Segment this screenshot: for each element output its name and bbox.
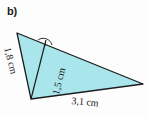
dimension-label-base: 3,1 cm — [71, 95, 99, 108]
triangle-shape — [17, 33, 143, 99]
figure-container: b) 1,8 cm 1,5 cm 3,1 cm — [0, 0, 149, 118]
right-angle-dot-icon — [44, 44, 46, 46]
